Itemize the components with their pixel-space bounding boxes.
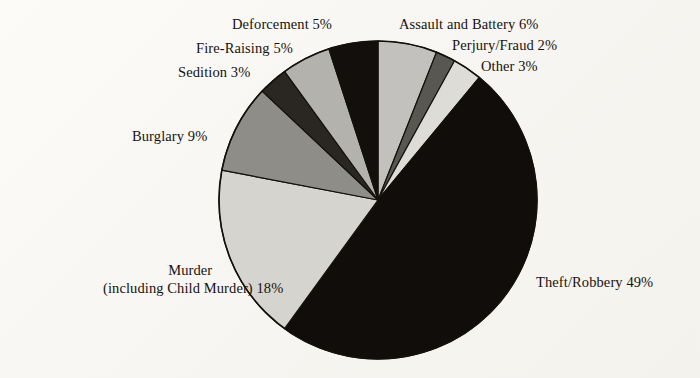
slice-label-deforcement: Deforcement 5% — [232, 16, 332, 34]
slice-label-murder: Murder (including Child Murder) 18% — [103, 262, 283, 297]
slice-label-other: Other 3% — [481, 58, 538, 76]
slice-label-theft-robbery: Theft/Robbery 49% — [536, 274, 653, 292]
pie-chart-graphic: Assault and Battery 6%Perjury/Fraud 2%Ot… — [0, 0, 700, 378]
pie-chart-figure: Assault and Battery 6%Perjury/Fraud 2%Ot… — [0, 0, 700, 378]
slice-label-assault-and-battery: Assault and Battery 6% — [399, 16, 539, 34]
slice-label-murder-line-1: Murder — [97, 262, 283, 280]
slice-label-sedition: Sedition 3% — [178, 64, 250, 82]
slice-label-fire-raising: Fire-Raising 5% — [196, 40, 293, 58]
slice-label-perjury-fraud: Perjury/Fraud 2% — [452, 37, 557, 55]
pie-slices-group: Assault and Battery 6%Perjury/Fraud 2%Ot… — [219, 41, 537, 359]
slice-label-murder-line-2: (including Child Murder) 18% — [103, 280, 283, 298]
slice-label-burglary: Burglary 9% — [132, 128, 207, 146]
